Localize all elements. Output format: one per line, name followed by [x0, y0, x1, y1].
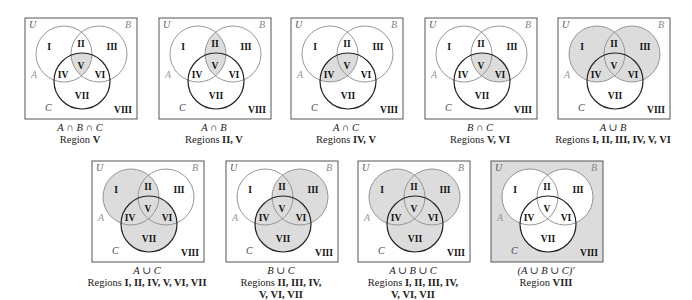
set-label-c: C — [445, 102, 452, 113]
set-label-c: C — [378, 245, 385, 256]
region-label-vii: VII — [209, 91, 224, 101]
region-values: I, II, III, IV, V, VI — [592, 134, 671, 145]
set-label-u: U — [230, 162, 238, 173]
region-label-ii: II — [278, 182, 286, 192]
region-values: I, II, IV, V, VI, VII — [125, 277, 207, 288]
region-label-v: V — [78, 61, 85, 71]
region-list-continued: V, VI, VII — [214, 289, 348, 300]
region-list: Regions II, V — [147, 134, 281, 146]
set-expression: A ∪ B ∪ C — [346, 265, 480, 277]
venn-diagram: UBACIIIIIIIVVVIVIIVIII — [490, 160, 604, 263]
set-label-a: A — [30, 69, 38, 80]
set-label-b: B — [391, 19, 397, 30]
set-label-b: B — [125, 19, 131, 30]
region-prefix: Regions — [241, 277, 275, 288]
region-label-iv: IV — [125, 213, 136, 223]
region-label-iii: III — [307, 185, 318, 195]
region-label-iv: IV — [591, 70, 602, 80]
region-list: Regions I, II, III, IV, V, VI — [546, 134, 680, 146]
set-label-u: U — [495, 162, 503, 173]
region-label-iii: III — [240, 42, 251, 52]
set-label-c: C — [246, 245, 253, 256]
region-label-viii: VIII — [580, 248, 598, 258]
diagram-caption: A ∪ BRegions I, II, III, IV, V, VI — [546, 122, 680, 146]
region-label-i: I — [248, 185, 252, 195]
region-label-v: V — [145, 204, 152, 214]
set-label-a: A — [164, 69, 172, 80]
region-list: Regions IV, V — [279, 134, 413, 146]
region-label-vii: VII — [142, 234, 157, 244]
region-label-iii: III — [639, 42, 650, 52]
region-list: Region V — [13, 134, 147, 146]
set-expression: A ∪ C — [80, 265, 214, 277]
region-label-ii: II — [410, 182, 418, 192]
region-label-i: I — [114, 185, 118, 195]
set-label-c: C — [45, 102, 52, 113]
region-label-ii: II — [543, 182, 551, 192]
region-label-v: V — [344, 61, 351, 71]
set-label-b: B — [458, 162, 464, 173]
region-list: Regions I, II, III, IV, — [346, 277, 480, 289]
region-label-viii: VIII — [647, 105, 665, 115]
region-label-i: I — [513, 185, 517, 195]
set-label-u: U — [295, 19, 303, 30]
region-label-iii: III — [506, 42, 517, 52]
venn-panel-b-or-c: UBACIIIIIIIVVVIVIIVIIIB ∪ CRegions II, I… — [225, 160, 359, 300]
region-label-iv: IV — [391, 213, 402, 223]
region-label-ii: II — [144, 182, 152, 192]
region-label-v: V — [279, 204, 286, 214]
diagram-caption: A ∩ CRegions IV, V — [279, 122, 413, 146]
diagram-caption: A ∩ BRegions II, V — [147, 122, 281, 146]
set-label-a: A — [231, 212, 239, 223]
region-list: Regions II, III, IV, — [214, 277, 348, 289]
region-prefix: Regions — [316, 134, 350, 145]
region-prefix: Regions — [555, 134, 589, 145]
region-label-vi: VI — [628, 70, 639, 80]
set-label-u: U — [163, 19, 171, 30]
region-label-vii: VII — [541, 234, 556, 244]
region-label-ii: II — [610, 39, 618, 49]
venn-panel-a-or-b: UBACIIIIIIIVVVIVIIVIIIA ∪ BRegions I, II… — [557, 17, 691, 157]
diagram-caption: A ∩ B ∩ CRegion V — [13, 122, 147, 146]
venn-diagram: UBACIIIIIIIVVVIVIIVIII — [357, 160, 471, 263]
region-label-vii: VII — [276, 234, 291, 244]
region-label-viii: VIII — [315, 248, 333, 258]
region-list: Regions V, VI — [413, 134, 547, 146]
region-values: V, VI — [487, 134, 510, 145]
set-label-u: U — [562, 19, 570, 30]
region-label-i: I — [181, 42, 185, 52]
diagram-caption: A ∪ CRegions I, II, IV, V, VI, VII — [80, 265, 214, 289]
region-list: Regions I, II, IV, V, VI, VII — [80, 277, 214, 289]
region-label-iv: IV — [458, 70, 469, 80]
region-label-vi: VI — [495, 70, 506, 80]
set-expression: A ∪ B — [546, 122, 680, 134]
region-values: V — [93, 134, 101, 145]
venn-diagram: UBACIIIIIIIVVVIVIIVIII — [24, 17, 138, 120]
venn-panel-b-and-c: UBACIIIIIIIVVVIVIIVIIIB ∩ CRegions V, VI — [424, 17, 558, 157]
set-label-u: U — [429, 19, 437, 30]
venn-panel-a-or-c: UBACIIIIIIIVVVIVIIVIIIA ∪ CRegions I, II… — [91, 160, 225, 300]
region-label-v: V — [611, 61, 618, 71]
region-label-iii: III — [372, 42, 383, 52]
set-label-b: B — [192, 162, 198, 173]
region-label-iv: IV — [192, 70, 203, 80]
region-label-iv: IV — [524, 213, 535, 223]
region-label-ii: II — [77, 39, 85, 49]
venn-panel-a-or-b-or-c: UBACIIIIIIIVVVIVIIVIIIA ∪ B ∪ CRegions I… — [357, 160, 491, 300]
region-label-iii: III — [173, 185, 184, 195]
region-label-iii: III — [106, 42, 117, 52]
region-label-vii: VII — [608, 91, 623, 101]
set-expression: (A ∪ B ∪ C)′ — [479, 265, 613, 277]
region-list: Region VIII — [479, 277, 613, 289]
region-label-vi: VI — [428, 213, 439, 223]
region-label-vii: VII — [75, 91, 90, 101]
region-list-continued: V, VI, VII — [346, 289, 480, 300]
set-expression: A ∩ C — [279, 122, 413, 134]
region-values: II, V — [222, 134, 243, 145]
venn-panel-a-and-b: UBACIIIIIIIVVVIVIIVIIIA ∩ BRegions II, V — [158, 17, 292, 157]
region-label-iv: IV — [259, 213, 270, 223]
region-label-i: I — [447, 42, 451, 52]
region-values-continued: V, VI, VII — [391, 289, 435, 300]
region-label-vii: VII — [341, 91, 356, 101]
region-label-vii: VII — [475, 91, 490, 101]
